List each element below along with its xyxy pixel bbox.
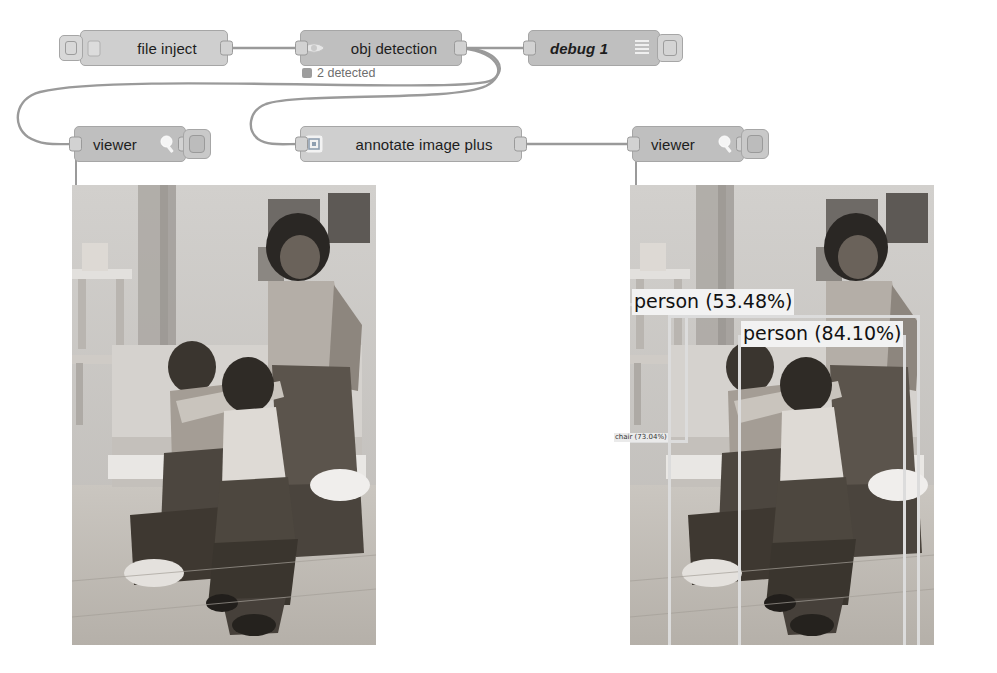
output-port-file-inject[interactable]: [220, 41, 233, 56]
output-port-annotate[interactable]: [514, 137, 527, 152]
input-port-annotate[interactable]: [295, 137, 308, 152]
inject-trigger-button[interactable]: [59, 35, 83, 61]
node-debug-1[interactable]: debug 1: [528, 30, 660, 66]
input-port-obj-detection[interactable]: [295, 41, 308, 56]
annotation-label-person-2: person (84.10%): [741, 321, 903, 347]
file-icon: [81, 31, 107, 65]
bounding-box-person-2: [738, 335, 906, 645]
input-port-viewer-right[interactable]: [627, 137, 640, 152]
node-label-debug-1: debug 1: [529, 40, 629, 57]
viewer-open-button-left[interactable]: [183, 129, 211, 159]
node-label-viewer-left: viewer: [75, 136, 155, 153]
input-port-debug-1[interactable]: [523, 41, 536, 56]
node-red-flow-canvas[interactable]: file inject obj detection 2 detected deb…: [0, 0, 997, 673]
annotation-label-person-1: person (53.48%): [632, 289, 794, 315]
output-port-obj-detection[interactable]: [454, 41, 467, 56]
node-label-viewer-right: viewer: [633, 136, 713, 153]
node-annotate-image-plus[interactable]: annotate image plus: [300, 126, 522, 162]
annotation-label-chair: chair (73.04%): [614, 433, 668, 442]
node-obj-detection[interactable]: obj detection: [300, 30, 462, 66]
node-label-file-inject: file inject: [107, 40, 227, 57]
node-file-inject[interactable]: file inject: [80, 30, 228, 66]
viewer-open-button-right[interactable]: [741, 129, 769, 159]
status-obj-detection: 2 detected: [302, 66, 375, 80]
status-dot-icon: [302, 68, 312, 78]
node-viewer-right[interactable]: viewer: [632, 126, 744, 162]
debug-bars-icon: [629, 31, 655, 65]
preview-image-original[interactable]: [72, 185, 376, 645]
debug-toggle-button[interactable]: [657, 34, 683, 62]
status-text-obj-detection: 2 detected: [317, 66, 375, 80]
node-label-obj-detection: obj detection: [327, 40, 461, 57]
preview-image-annotated[interactable]: [630, 185, 934, 645]
input-port-viewer-left[interactable]: [69, 137, 82, 152]
node-viewer-left[interactable]: viewer: [74, 126, 186, 162]
node-label-annotate-image-plus: annotate image plus: [327, 136, 521, 153]
